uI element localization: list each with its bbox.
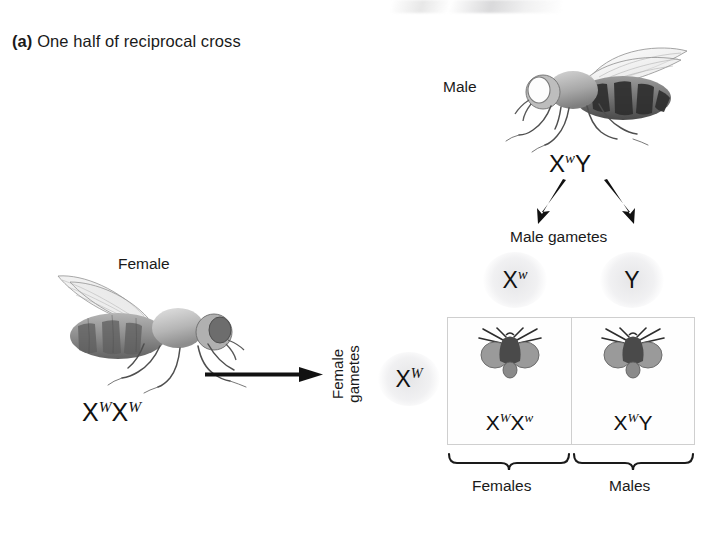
- punnett-genotype-females: XWXw: [486, 410, 534, 435]
- male-gamete-split-arrows: [520, 178, 660, 230]
- male-gamete-y-text: Y: [624, 266, 639, 294]
- male-gamete-2-base: Y: [624, 267, 639, 293]
- female-gametes-caption-line2: gametes: [345, 345, 362, 403]
- female-gamete-x-w: XW: [378, 352, 440, 406]
- cell2-allele1: W: [628, 410, 639, 425]
- cell1-allele2: w: [525, 410, 534, 425]
- panel-title: (a) One half of reciprocal cross: [12, 32, 241, 51]
- male-genotype-base: X: [549, 150, 565, 177]
- cell2-base2: Y: [638, 411, 652, 434]
- female-gamete-allele: W: [411, 365, 423, 381]
- male-parent-genotype: XwY: [549, 150, 591, 178]
- punnett-cell-females[interactable]: XWXw: [448, 318, 571, 444]
- punnett-cell-males[interactable]: XWY: [571, 318, 694, 444]
- cell1-base2: X: [511, 411, 525, 434]
- female-gamete-base: X: [395, 366, 410, 392]
- male-gamete-1-allele: w: [518, 266, 528, 282]
- male-genotype-tail: Y: [575, 150, 591, 177]
- male-genotype-allele: w: [565, 150, 575, 166]
- punnett-square: XWXw XWY: [447, 317, 695, 445]
- female-genotype-allele2: W: [128, 398, 141, 415]
- female-parent-genotype: XWXW: [82, 398, 141, 427]
- male-gamete-x-w-text: Xw: [503, 266, 528, 294]
- male-gamete-1-base: X: [503, 267, 518, 293]
- male-parent-label: Male: [443, 78, 477, 96]
- males-brace: [572, 452, 695, 476]
- punnett-genotype-males: XWY: [614, 410, 653, 435]
- panel-title-text: One half of reciprocal cross: [37, 32, 241, 50]
- offspring-fly-head-icon: [596, 326, 670, 386]
- male-gamete-y: Y: [600, 252, 664, 308]
- female-genotype-allele1: W: [99, 398, 112, 415]
- male-gamete-x-w: Xw: [483, 252, 547, 308]
- cell1-allele1: W: [500, 410, 511, 425]
- female-gamete-x-w-text: XW: [395, 365, 422, 393]
- male-fly-illustration: [495, 42, 695, 160]
- male-gametes-caption: Male gametes: [510, 228, 607, 246]
- female-gametes-caption: Female gametes: [330, 336, 362, 412]
- panel-tag: (a): [12, 32, 32, 50]
- female-gametes-caption-line1: Female: [329, 349, 346, 399]
- cell2-base1: X: [614, 411, 628, 434]
- figure-panel-a: (a) One half of reciprocal cross Male: [0, 0, 727, 541]
- female-genotype-base1: X: [82, 398, 99, 426]
- female-cross-arrow: [205, 364, 325, 390]
- males-group-label: Males: [609, 477, 650, 495]
- females-group-label: Females: [472, 477, 531, 495]
- female-genotype-base2: X: [112, 398, 129, 426]
- scan-artifact: [392, 0, 562, 13]
- offspring-fly-head-icon: [473, 326, 547, 386]
- cell1-base1: X: [486, 411, 500, 434]
- females-brace: [447, 452, 571, 476]
